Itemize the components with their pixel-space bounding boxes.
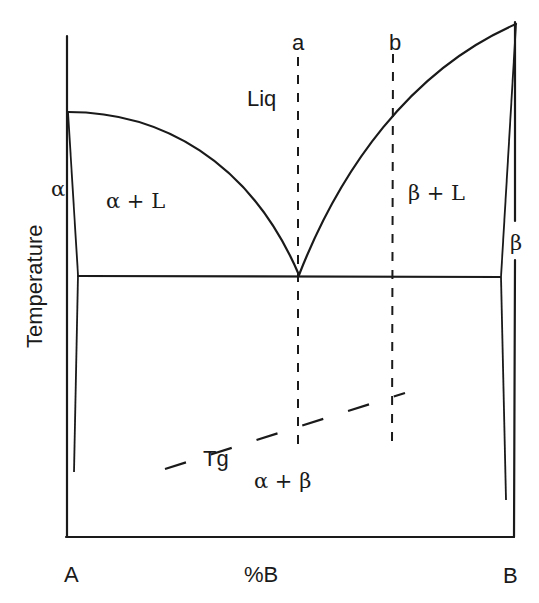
- beta-liquidus-curve: [299, 24, 516, 275]
- y-axis-label: Temperature: [22, 224, 47, 348]
- eutectic-line: [78, 276, 500, 277]
- composition-b-label: b: [389, 30, 401, 55]
- beta-plus-liquid-label: β + L: [408, 181, 465, 205]
- alpha-plus-beta-label: α + β: [254, 469, 311, 493]
- alpha-liquidus-curve: [68, 112, 299, 275]
- liquid-region-label: Liq: [247, 86, 276, 111]
- alpha-solvus-line: [74, 275, 78, 472]
- alpha-solidus-line: [68, 112, 78, 275]
- glass-transition-line: [165, 393, 405, 469]
- right-axis-line-lower: [514, 260, 515, 537]
- beta-region-label: β: [510, 231, 522, 255]
- x-axis-label: %B: [244, 562, 278, 587]
- component-a-label: A: [64, 562, 79, 587]
- component-b-label: B: [503, 563, 518, 588]
- phase-diagram: a b Liq α + L β + L α β α + β Tg Tempera…: [0, 0, 539, 603]
- alpha-plus-liquid-label: α + L: [106, 189, 165, 213]
- composition-line-b: [392, 54, 393, 446]
- beta-solvus-line: [501, 277, 506, 500]
- composition-a-label: a: [292, 30, 305, 55]
- alpha-region-label: α: [51, 177, 65, 201]
- tg-label: Tg: [203, 446, 229, 471]
